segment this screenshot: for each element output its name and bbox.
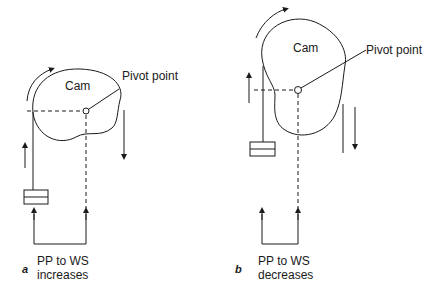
panel-b: Cam Pivot point PP to WS decreases (249, 9, 423, 282)
panel-label-a-text: a (22, 263, 28, 275)
caption-line2-b: decreases (258, 268, 313, 282)
pivot-label-b: Pivot point (366, 43, 423, 57)
panel-a: Cam Pivot point PP to WS increases (24, 69, 179, 282)
cam-label-a: Cam (65, 79, 90, 93)
pivot-point-b (295, 87, 302, 94)
cam-shape-b (262, 19, 346, 135)
cam-label-b: Cam (293, 41, 318, 55)
pivot-label-a: Pivot point (122, 69, 179, 83)
pivot-point-a (83, 108, 89, 114)
rotation-arrow-b (256, 9, 286, 38)
caption-line2-a: increases (37, 268, 88, 282)
caption-line1-a: PP to WS (37, 254, 89, 268)
caption-line1-b: PP to WS (258, 254, 310, 268)
cam-diagram: Cam Pivot point PP to WS increases (0, 0, 437, 299)
panel-label-b: b (235, 263, 242, 275)
